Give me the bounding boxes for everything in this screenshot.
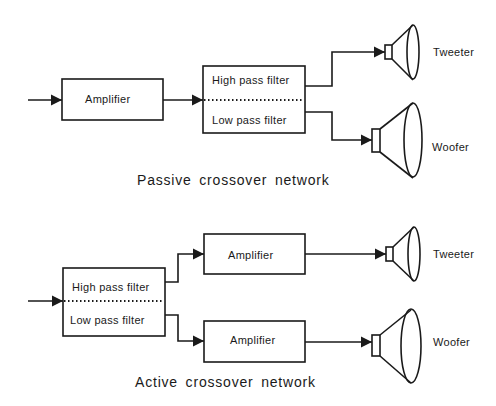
passive-high-pass-label: High pass filter bbox=[212, 74, 290, 86]
active-tweeter-label: Tweeter bbox=[433, 248, 474, 260]
active-high-wire bbox=[165, 254, 204, 282]
passive-title: Passive crossover network bbox=[137, 172, 330, 188]
active-title: Active crossover network bbox=[135, 374, 316, 390]
passive-tweeter-label: Tweeter bbox=[433, 46, 474, 58]
active-woofer-label: Woofer bbox=[433, 336, 470, 348]
active-woofer-icon bbox=[372, 309, 421, 383]
active-network bbox=[28, 227, 421, 383]
passive-tweeter-wire bbox=[305, 52, 385, 86]
passive-woofer-label: Woofer bbox=[432, 141, 469, 153]
passive-woofer-icon bbox=[372, 103, 422, 178]
active-amplifier-bottom-label: Amplifier bbox=[230, 334, 276, 346]
active-high-pass-label: High pass filter bbox=[72, 281, 150, 293]
active-low-wire bbox=[165, 315, 204, 341]
active-tweeter-icon bbox=[386, 227, 420, 281]
passive-amplifier-label: Amplifier bbox=[85, 93, 131, 105]
passive-low-pass-label: Low pass filter bbox=[212, 114, 287, 126]
active-low-pass-label: Low pass filter bbox=[70, 314, 145, 326]
passive-tweeter-icon bbox=[385, 25, 419, 80]
active-amplifier-top-label: Amplifier bbox=[228, 249, 274, 261]
passive-woofer-wire bbox=[305, 112, 372, 140]
